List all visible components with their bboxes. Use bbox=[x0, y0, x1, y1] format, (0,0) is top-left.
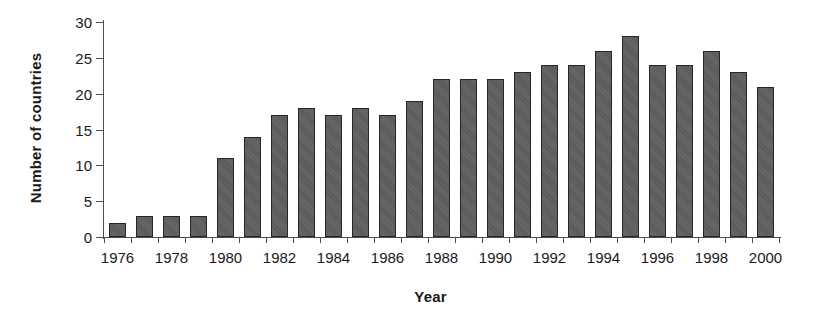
bar bbox=[298, 108, 314, 237]
x-tick-label: 1982 bbox=[263, 249, 296, 266]
x-tick-mark bbox=[185, 237, 186, 243]
y-tick-mark bbox=[96, 130, 103, 131]
x-tick-mark bbox=[752, 237, 753, 243]
bar-chart: Number of countries 051015202530 1976197… bbox=[0, 0, 819, 320]
y-tick-label: 15 bbox=[75, 121, 92, 138]
x-tick-mark bbox=[671, 237, 672, 243]
bar bbox=[271, 115, 287, 237]
x-tick-mark bbox=[239, 237, 240, 243]
x-tick-mark bbox=[644, 237, 645, 243]
y-tick-mark bbox=[96, 94, 103, 95]
x-tick-label: 1976 bbox=[101, 249, 134, 266]
x-tick-label: 2000 bbox=[749, 249, 782, 266]
x-tick-mark bbox=[320, 237, 321, 243]
y-tick-label: 10 bbox=[75, 157, 92, 174]
x-tick-mark bbox=[374, 237, 375, 243]
bar bbox=[541, 65, 557, 237]
x-tick-label: 1986 bbox=[371, 249, 404, 266]
bar bbox=[217, 158, 233, 237]
bar bbox=[595, 51, 611, 237]
x-tick-mark bbox=[347, 237, 348, 243]
x-tick-label: 1980 bbox=[209, 249, 242, 266]
x-tick-label: 1978 bbox=[155, 249, 188, 266]
x-tick-mark bbox=[617, 237, 618, 243]
y-tick-mark bbox=[96, 165, 103, 166]
bar bbox=[163, 216, 179, 238]
x-axis-title: Year bbox=[0, 288, 819, 305]
x-tick-mark bbox=[563, 237, 564, 243]
x-tick-mark bbox=[698, 237, 699, 243]
x-tick-mark bbox=[131, 237, 132, 243]
x-tick-label: 1994 bbox=[587, 249, 620, 266]
y-tick-label: 5 bbox=[84, 193, 92, 210]
x-tick-mark bbox=[509, 237, 510, 243]
y-tick-mark bbox=[96, 201, 103, 202]
x-axis-title-text: Year bbox=[414, 288, 447, 305]
bar bbox=[487, 79, 503, 237]
x-tick-label: 1996 bbox=[641, 249, 674, 266]
x-tick-mark bbox=[212, 237, 213, 243]
x-tick-mark bbox=[779, 237, 780, 243]
x-tick-mark bbox=[455, 237, 456, 243]
x-tick-mark bbox=[266, 237, 267, 243]
bar bbox=[136, 216, 152, 238]
x-tick-label: 1988 bbox=[425, 249, 458, 266]
y-axis-title: Number of countries bbox=[18, 8, 52, 248]
x-tick-mark bbox=[590, 237, 591, 243]
x-tick-label: 1998 bbox=[695, 249, 728, 266]
x-tick-mark bbox=[428, 237, 429, 243]
bar bbox=[244, 137, 260, 237]
bar bbox=[622, 36, 638, 237]
bar bbox=[460, 79, 476, 237]
bar bbox=[676, 65, 692, 237]
x-tick-mark bbox=[725, 237, 726, 243]
x-tick-mark bbox=[482, 237, 483, 243]
x-tick-mark bbox=[293, 237, 294, 243]
y-tick-label: 20 bbox=[75, 85, 92, 102]
x-axis-line bbox=[103, 237, 781, 238]
y-tick-mark bbox=[96, 22, 103, 23]
bar bbox=[109, 223, 125, 237]
bar bbox=[703, 51, 719, 237]
x-tick-mark bbox=[536, 237, 537, 243]
x-tick-label: 1984 bbox=[317, 249, 350, 266]
x-tick-mark bbox=[104, 237, 105, 243]
bar bbox=[730, 72, 746, 237]
bar bbox=[757, 87, 773, 238]
y-tick-label: 0 bbox=[84, 229, 92, 246]
bar bbox=[433, 79, 449, 237]
bar bbox=[379, 115, 395, 237]
y-tick-mark bbox=[96, 237, 103, 238]
plot-area: 051015202530 bbox=[104, 22, 779, 237]
bar bbox=[190, 216, 206, 238]
bar bbox=[568, 65, 584, 237]
bar bbox=[406, 101, 422, 237]
bar bbox=[352, 108, 368, 237]
y-tick-label: 30 bbox=[75, 14, 92, 31]
bar bbox=[649, 65, 665, 237]
x-tick-mark bbox=[158, 237, 159, 243]
bar bbox=[325, 115, 341, 237]
x-tick-mark bbox=[401, 237, 402, 243]
x-tick-label: 1990 bbox=[479, 249, 512, 266]
x-tick-label: 1992 bbox=[533, 249, 566, 266]
y-tick-mark bbox=[96, 58, 103, 59]
y-tick-label: 25 bbox=[75, 49, 92, 66]
bar bbox=[514, 72, 530, 237]
